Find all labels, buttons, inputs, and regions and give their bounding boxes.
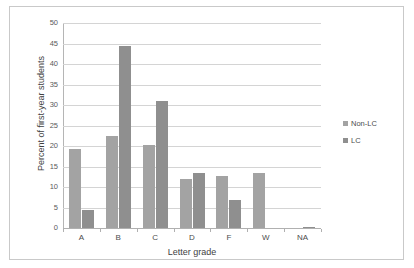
y-axis-tick-labels: 05101520253035404550 xyxy=(32,23,58,228)
y-axis-tick-label: 10 xyxy=(50,183,58,191)
bar[interactable] xyxy=(193,173,205,228)
y-axis-tick-label: 20 xyxy=(50,142,58,150)
x-axis-tick-mark xyxy=(321,229,322,232)
legend-swatch-icon xyxy=(343,121,348,126)
x-axis-tick-label: C xyxy=(137,234,174,242)
bar[interactable] xyxy=(216,176,228,228)
bar-group xyxy=(180,23,205,228)
y-axis-tick-label: 15 xyxy=(50,163,58,171)
bar[interactable] xyxy=(69,149,81,228)
bar-group xyxy=(143,23,168,228)
y-axis-tick-label: 35 xyxy=(50,81,58,89)
x-axis-tick-label: NA xyxy=(284,234,321,242)
y-axis-tick-label: 0 xyxy=(54,224,58,232)
plot-area xyxy=(63,23,321,228)
y-axis-tick-label: 50 xyxy=(50,19,58,27)
y-axis-tick-label: 5 xyxy=(54,204,58,212)
y-axis-tick-label: 25 xyxy=(50,122,58,130)
bar-group xyxy=(253,23,278,228)
x-axis-tick-label: B xyxy=(100,234,137,242)
legend-label: LC xyxy=(351,137,361,145)
x-axis-tick-mark xyxy=(100,229,101,232)
bar[interactable] xyxy=(143,145,155,228)
bar[interactable] xyxy=(253,173,265,228)
legend-label: Non-LC xyxy=(351,120,377,128)
x-axis-tick-mark xyxy=(284,229,285,232)
x-axis-tick-mark xyxy=(210,229,211,232)
legend-swatch-icon xyxy=(343,138,348,143)
x-axis-tick-mark xyxy=(63,229,64,232)
y-axis-tick-label: 45 xyxy=(50,40,58,48)
x-axis-tick-mark xyxy=(137,229,138,232)
chart-frame: Percent of first-year students 051015202… xyxy=(9,6,404,260)
x-axis-title: Letter grade xyxy=(63,248,321,257)
y-axis-tick-label: 40 xyxy=(50,60,58,68)
x-axis-tick-mark xyxy=(247,229,248,232)
bar[interactable] xyxy=(156,101,168,228)
bar[interactable] xyxy=(119,46,131,228)
bar[interactable] xyxy=(82,210,94,228)
legend-entry[interactable]: LC xyxy=(343,136,399,145)
plot-inner xyxy=(63,23,321,228)
bar[interactable] xyxy=(303,227,315,228)
bar-group xyxy=(106,23,131,228)
bar[interactable] xyxy=(229,200,241,228)
x-axis-tick-label: W xyxy=(247,234,284,242)
bar-group xyxy=(216,23,241,228)
x-axis-tick-label: A xyxy=(63,234,100,242)
bar-group xyxy=(290,23,315,228)
bar[interactable] xyxy=(106,136,118,228)
x-axis-tick-mark xyxy=(174,229,175,232)
gridline xyxy=(63,228,321,229)
bar[interactable] xyxy=(180,179,192,228)
bar-group xyxy=(69,23,94,228)
chart-legend: Non-LCLC xyxy=(343,119,399,153)
legend-entry[interactable]: Non-LC xyxy=(343,119,399,128)
x-axis-tick-label: D xyxy=(174,234,211,242)
x-axis-tick-label: F xyxy=(210,234,247,242)
y-axis-tick-label: 30 xyxy=(50,101,58,109)
